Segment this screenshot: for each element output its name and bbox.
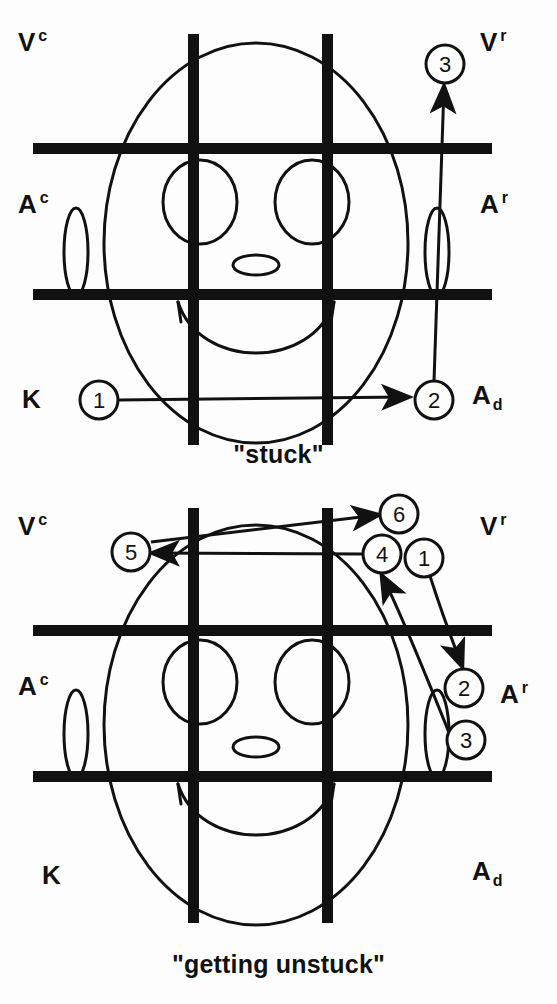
grid-bar-horizontal-top (33, 143, 492, 154)
label-ar-unstuck-sup: r (522, 679, 528, 696)
label-vr-stuck-base: V (480, 27, 497, 57)
label-vc-unstuck-base: V (18, 511, 35, 541)
label-ac-stuck-base: A (18, 189, 37, 219)
marker-3: 3 (426, 45, 464, 83)
marker-1-label: 1 (418, 546, 430, 571)
label-vr-stuck: Vr (480, 28, 507, 55)
grid-bar-horizontal-bottom (33, 289, 492, 300)
marker-5-label: 5 (125, 540, 137, 565)
label-ar-unstuck: Ar (500, 680, 528, 707)
label-k-stuck-base: K (22, 384, 41, 414)
label-vc-unstuck: Vc (18, 512, 47, 539)
label-ac-stuck: Ac (18, 190, 49, 217)
arrow-1-to-2 (118, 397, 408, 400)
caption-unstuck: "getting unstuck" (0, 950, 557, 979)
label-ad-stuck-base: A (472, 380, 491, 410)
marker-2-label: 2 (428, 388, 440, 413)
arrow-4-to-5 (153, 553, 362, 554)
label-vc-stuck-sup: c (38, 27, 47, 44)
marker-5: 5 (112, 533, 150, 571)
label-ac-unstuck-sup: c (40, 671, 49, 688)
label-ar-stuck: Ar (480, 190, 508, 217)
eye-right (275, 640, 349, 724)
figure-page: 1 2 3 Vc Vr Ac Ar K Ad "stuck" (0, 0, 557, 1004)
marker-1: 1 (80, 381, 118, 419)
arrow-5-to-6 (151, 515, 378, 542)
marker-3-label: 3 (439, 52, 451, 77)
marker-3-label: 3 (460, 728, 472, 753)
label-vc-stuck-base: V (18, 27, 35, 57)
grid-bar-vertical-right (322, 34, 333, 445)
ear-left (64, 208, 88, 296)
ear-left (64, 690, 88, 778)
label-k-unstuck-base: K (42, 860, 61, 890)
label-ar-stuck-base: A (480, 189, 499, 219)
label-vr-unstuck-sup: r (500, 511, 506, 528)
eye-left (163, 160, 237, 244)
nose (233, 255, 279, 275)
label-ad-unstuck-base: A (472, 856, 491, 886)
label-ad-stuck: Ad (472, 382, 503, 413)
grid-bar-vertical-left (188, 508, 199, 923)
marker-6-label: 6 (393, 502, 405, 527)
gaze-arrows (118, 87, 444, 400)
label-ad-unstuck: Ad (472, 858, 503, 889)
marker-3: 3 (447, 721, 485, 759)
face-outline (104, 525, 408, 925)
label-ar-unstuck-base: A (500, 679, 519, 709)
label-vr-unstuck-base: V (480, 511, 497, 541)
marker-2: 2 (445, 669, 483, 707)
arrow-2-to-3 (434, 87, 444, 381)
label-ac-unstuck: Ac (18, 672, 49, 699)
grid-bar-vertical-left (188, 34, 199, 445)
mouth (178, 784, 334, 835)
marker-2-label: 2 (458, 676, 470, 701)
grid-bar-horizontal-top (33, 625, 492, 636)
label-vr-stuck-sup: r (500, 27, 506, 44)
label-k-stuck: K (22, 386, 41, 412)
marker-4-label: 4 (376, 542, 388, 567)
marker-4: 4 (363, 535, 401, 573)
label-k-unstuck: K (42, 862, 61, 888)
arrow-1-to-2 (430, 576, 462, 666)
face-outline (104, 43, 408, 443)
grid-bar-horizontal-bottom (33, 771, 492, 782)
label-ad-stuck-sub: d (493, 396, 503, 413)
eye-left (163, 640, 237, 724)
marker-1-label: 1 (93, 388, 105, 413)
marker-6: 6 (380, 495, 418, 533)
marker-2: 2 (415, 381, 453, 419)
label-ac-unstuck-base: A (18, 671, 37, 701)
label-vc-stuck: Vc (18, 28, 47, 55)
mouth (178, 302, 334, 353)
label-ac-stuck-sup: c (40, 189, 49, 206)
caption-stuck: "stuck" (0, 440, 557, 469)
arrow-3-to-4 (382, 576, 456, 750)
marker-1: 1 (405, 539, 443, 577)
eye-right (275, 160, 349, 244)
label-vc-unstuck-sup: c (38, 511, 47, 528)
label-vr-unstuck: Vr (480, 512, 507, 539)
nose (233, 737, 279, 757)
grid-bar-vertical-right (322, 508, 333, 923)
label-ad-unstuck-sub: d (493, 872, 503, 889)
label-ar-stuck-sup: r (502, 189, 508, 206)
